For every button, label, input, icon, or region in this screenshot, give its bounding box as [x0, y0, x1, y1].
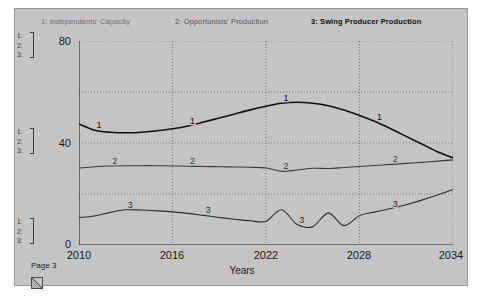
scale-marker-numbers: 1: 2: 3:: [17, 217, 22, 246]
scale-marker-bracket-icon: [30, 32, 34, 58]
x-axis-title: Years: [15, 265, 469, 276]
x-axis-tick-2034: 2034: [429, 249, 473, 261]
series-point-label-text: 1: [97, 120, 102, 130]
scale-marker-bracket-icon: [30, 128, 34, 154]
plot-area[interactable]: 111111112222222233333333: [79, 41, 453, 245]
series-point-label-2: 22: [284, 161, 289, 171]
page-turn-corner-icon[interactable]: [31, 275, 43, 287]
scale-marker-bracket-icon: [30, 218, 34, 244]
scale-marker-line-1: 1:: [17, 31, 22, 41]
series-point-label-2: 22: [112, 156, 117, 166]
scale-marker-line-2: 2:: [17, 41, 22, 51]
series-point-label-text: 1: [377, 112, 382, 122]
scale-marker-line-3: 3:: [17, 236, 22, 246]
series-point-label-1: 11: [284, 93, 289, 103]
legend-item-2[interactable]: 2: Opportunists' Production: [175, 17, 268, 26]
scale-marker-group-bottom[interactable]: 1: 2: 3:: [17, 217, 41, 247]
series-point-label-2: 22: [393, 154, 398, 164]
scale-marker-line-2: 2:: [17, 137, 22, 147]
x-axis-tick-2016: 2016: [150, 249, 194, 261]
series-point-label-3: 33: [128, 200, 133, 210]
series-point-label-text: 2: [284, 161, 289, 171]
y-axis-tick-80: 80: [39, 35, 71, 47]
series-point-label-text: 1: [190, 116, 195, 126]
series-point-label-3: 33: [393, 199, 398, 209]
scale-marker-group-top[interactable]: 1: 2: 3:: [17, 31, 41, 61]
scale-marker-line-1: 1:: [17, 217, 22, 227]
legend-item-1[interactable]: 1: Independents' Capacity: [41, 17, 130, 26]
series-point-label-1: 11: [377, 112, 382, 122]
series-point-label-3: 33: [299, 215, 304, 225]
series-point-label-text: 1: [284, 93, 289, 103]
page-turn-glyph: [31, 277, 43, 289]
series-point-label-2: 22: [190, 156, 195, 166]
legend-item-3[interactable]: 3: Swing Producer Production: [311, 17, 421, 26]
scale-marker-line-3: 3:: [17, 146, 22, 156]
series-point-label-text: 2: [190, 156, 195, 166]
series-point-label-text: 3: [206, 205, 211, 215]
x-axis-tick-2028: 2028: [337, 249, 381, 261]
series-point-label-text: 3: [128, 200, 133, 210]
series-point-label-1: 11: [190, 116, 195, 126]
series-point-label-text: 3: [393, 199, 398, 209]
scale-marker-numbers: 1: 2: 3:: [17, 31, 22, 60]
chart-svg: 111111112222222233333333: [79, 41, 453, 245]
scale-marker-group-middle[interactable]: 1: 2: 3:: [17, 127, 41, 157]
graph-window: 1: Independents' Capacity 2: Opportunist…: [0, 0, 482, 297]
x-axis-tick-2010: 2010: [57, 249, 101, 261]
scale-marker-line-2: 2:: [17, 227, 22, 237]
chart-legend: 1: Independents' Capacity 2: Opportunist…: [15, 17, 469, 31]
series-point-label-text: 3: [299, 215, 304, 225]
page-label: Page 3: [31, 261, 56, 270]
x-axis-tick-2022: 2022: [244, 249, 288, 261]
series-point-label-3: 33: [206, 205, 211, 215]
series-point-label-text: 2: [112, 156, 117, 166]
y-axis-tick-40: 40: [39, 137, 71, 149]
chart-panel: 1: Independents' Capacity 2: Opportunist…: [14, 8, 468, 286]
series-point-label-1: 11: [97, 120, 102, 130]
series-point-label-text: 2: [393, 154, 398, 164]
scale-marker-line-3: 3:: [17, 50, 22, 60]
scale-marker-line-1: 1:: [17, 127, 22, 137]
scale-marker-numbers: 1: 2: 3:: [17, 127, 22, 156]
